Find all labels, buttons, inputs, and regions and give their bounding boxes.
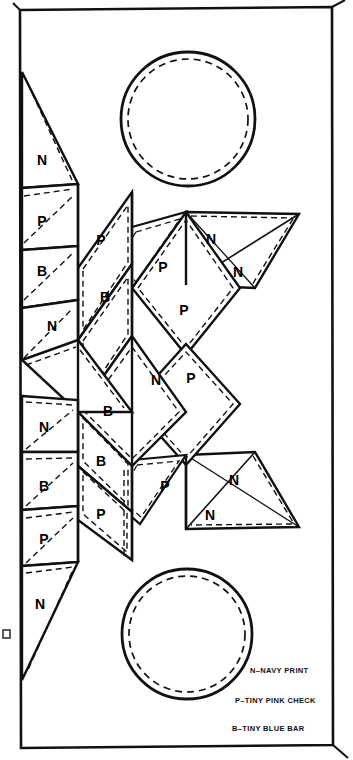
top-circle-outline	[121, 52, 255, 186]
patch-label: N	[47, 318, 57, 334]
patch-label: P	[39, 531, 48, 547]
pattern-illustration: N P B N N B P N P B B B P P P N P P N N …	[0, 0, 353, 760]
patch-B-col1-7	[22, 452, 78, 510]
border-corner-tl	[13, 3, 20, 10]
patch-label: N	[39, 419, 49, 435]
patch-label: B	[39, 478, 49, 494]
bottom-circle	[122, 569, 252, 699]
patch-label: N	[229, 472, 239, 488]
patch-label: P	[96, 232, 105, 248]
patch-label: B	[103, 403, 113, 419]
diagram-sheet: N P B N N B P N P B B B P P P N P P N N …	[0, 0, 353, 760]
patch-label: N	[35, 596, 45, 612]
patch-label: B	[37, 263, 47, 279]
legend-item-pink: P–TINY PINK CHECK	[235, 696, 316, 705]
bottom-circle-outline	[122, 569, 252, 699]
patch-label: N	[206, 231, 216, 247]
border-corner-tr	[332, 0, 345, 7]
legend-item-navy: N–NAVY PRINT	[250, 666, 309, 675]
border-corner-br	[333, 745, 348, 758]
patch-label: N	[37, 152, 47, 168]
patch-label: P	[37, 213, 46, 229]
patch-label: P	[160, 478, 169, 494]
patch-label: N	[233, 264, 243, 280]
patch-label: P	[96, 506, 105, 522]
patch-label: P	[179, 302, 188, 318]
patch-label: P	[158, 259, 167, 275]
patch-label: P	[186, 370, 195, 386]
patch-P-col1-2	[22, 184, 78, 250]
patch-label: N	[205, 507, 215, 523]
patch-label: B	[96, 453, 106, 469]
top-circle	[121, 52, 255, 186]
patch-label: N	[151, 372, 161, 388]
patch-label: B	[100, 289, 110, 305]
page-edge-artifact	[3, 630, 10, 638]
legend-item-blue: B–TINY BLUE BAR	[232, 724, 305, 733]
